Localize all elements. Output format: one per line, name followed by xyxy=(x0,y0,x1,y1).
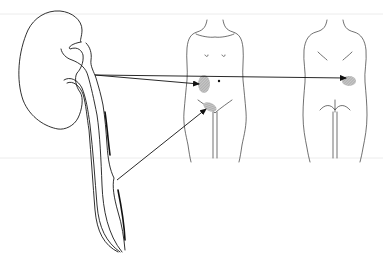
arrow-posterior-flank xyxy=(95,75,346,78)
groin-pain-area xyxy=(202,100,218,113)
kidney-ureter xyxy=(19,11,125,252)
anterior-flank-pain-area xyxy=(198,75,210,93)
front-body xyxy=(184,20,246,162)
referral-arrows xyxy=(95,75,346,180)
referred-pain-diagram xyxy=(0,0,383,265)
posterior-flank-pain-area xyxy=(342,76,356,86)
back-body xyxy=(303,20,367,162)
navel xyxy=(218,80,220,82)
arrow-groin xyxy=(117,109,206,180)
